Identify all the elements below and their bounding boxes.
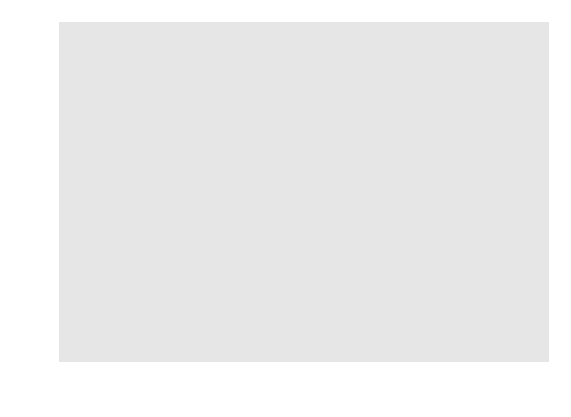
plot-area	[59, 22, 549, 362]
scatter-points	[59, 22, 549, 362]
regression-scatter-figure	[0, 0, 571, 417]
